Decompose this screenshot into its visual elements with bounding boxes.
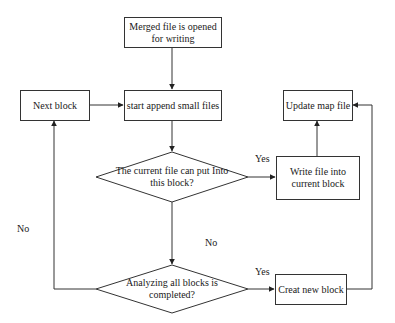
flowchart-canvas: Merged file is opened for writing Next b… <box>0 0 395 323</box>
decision-all-analyzed: Analyzing all blocks is completed? <box>118 276 226 302</box>
node-write-file-text: Write file into current block <box>289 166 347 190</box>
node-update-map: Update map file <box>283 90 353 121</box>
node-merged-open: Merged file is opened for writing <box>124 17 222 48</box>
node-write-file: Write file into current block <box>276 156 360 200</box>
label-all-analyzed-yes: Yes <box>255 266 270 278</box>
decision-all-analyzed-text: Analyzing all blocks is completed? <box>118 277 226 301</box>
decision-can-put-text: The current file can put Into this block… <box>112 165 232 189</box>
edge-analyzed-no <box>54 121 96 289</box>
node-start-append: start append small files <box>124 90 222 121</box>
node-merged-open-text: Merged file is opened for writing <box>125 21 221 45</box>
node-next-block: Next block <box>20 90 90 121</box>
node-start-append-text: start append small files <box>127 100 219 112</box>
node-update-map-text: Update map file <box>286 100 350 112</box>
node-create-block: Creat new block <box>275 274 347 305</box>
label-can-put-yes: Yes <box>255 153 270 165</box>
node-next-block-text: Next block <box>33 100 77 112</box>
decision-can-put: The current file can put Into this block… <box>112 164 232 190</box>
node-create-block-text: Creat new block <box>278 284 344 296</box>
label-can-put-no: No <box>205 237 217 249</box>
label-all-analyzed-no: No <box>17 223 29 235</box>
